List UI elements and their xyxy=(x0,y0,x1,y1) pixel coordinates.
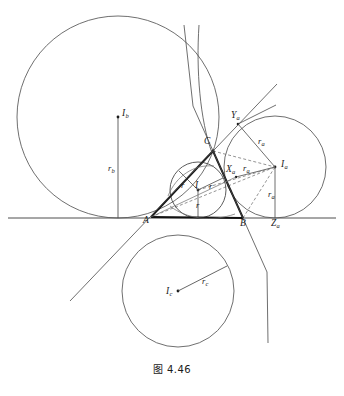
tangent-point-label-Za: Za xyxy=(271,219,280,229)
inradius-label-r-left: r xyxy=(181,181,184,190)
ra-sub-lower: a xyxy=(272,193,275,200)
ra-sub-upper: a xyxy=(262,140,265,147)
ra-letter-lower: r xyxy=(268,189,271,199)
figure-container: A B C I r r r Ia ra ra ra Xa Ya Za Ib rb… xyxy=(0,0,344,396)
line-BC-lower-extension xyxy=(267,272,268,343)
construction-chord-A-to-Xa xyxy=(151,177,236,217)
excircle-a-radius-label-upper: ra xyxy=(258,137,265,146)
radius-ra-to-Ya xyxy=(238,124,275,167)
rb-letter: r xyxy=(108,163,111,173)
excircle-b-radius-label-rb: rb xyxy=(108,164,115,173)
rb-sub: b xyxy=(112,167,115,174)
excircle-a-radius-label-left: ra xyxy=(243,164,250,173)
rc-letter: r xyxy=(202,276,205,286)
excircle-c-radius-label-rc: rc xyxy=(202,277,208,286)
vertex-label-C: C xyxy=(204,137,210,147)
line-AC-extended xyxy=(70,84,277,301)
excircle-b-center-dot xyxy=(117,116,120,119)
Xa-letter: X xyxy=(226,164,232,174)
line-BC-extended xyxy=(193,106,267,272)
Xa-sub: a xyxy=(232,168,235,175)
line-BC-upper-extension xyxy=(184,25,193,106)
excircle-c-center-subscript: c xyxy=(169,290,172,297)
ra-letter-left: r xyxy=(243,163,246,173)
inradius-label-r-bottom: r xyxy=(196,201,199,210)
excircle-a-center-subscript: a xyxy=(284,163,287,170)
rc-sub: c xyxy=(206,280,209,287)
Ya-sub: a xyxy=(237,114,240,121)
vertex-label-A: A xyxy=(143,216,149,226)
geometry-drawing xyxy=(0,0,344,396)
tangent-point-label-Ya: Ya xyxy=(231,111,240,121)
excircle-c-center-label-Ic: Ic xyxy=(166,287,172,297)
vertex-label-B: B xyxy=(240,219,246,229)
Za-sub: a xyxy=(277,222,280,229)
tangent-point-label-Xa: Xa xyxy=(226,165,235,175)
Za-letter: Z xyxy=(271,218,276,228)
excircle-a-radius-label-lower: ra xyxy=(268,190,275,199)
excircle-b-center-subscript: b xyxy=(125,112,128,119)
inradius-label-r-right: r xyxy=(209,182,212,191)
excircle-b-center-label-Ib: Ib xyxy=(122,109,128,119)
incenter-label-I: I xyxy=(195,181,198,191)
ra-letter-upper: r xyxy=(258,136,261,146)
figure-caption: 图 4.46 xyxy=(0,361,344,376)
ra-sub-left: a xyxy=(247,167,250,174)
tangent-stub-at-Ya xyxy=(238,105,276,124)
excircle-a-center-label-Ia: Ia xyxy=(281,160,287,170)
Ya-letter: Y xyxy=(231,110,236,120)
